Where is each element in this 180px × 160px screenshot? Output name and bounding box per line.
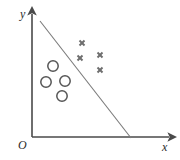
circle-marker bbox=[48, 61, 58, 71]
cross-marker bbox=[98, 68, 103, 73]
cross-marker bbox=[78, 56, 83, 61]
x-axis-label: x bbox=[162, 141, 167, 153]
circle-marker bbox=[60, 76, 70, 86]
circle-marker bbox=[41, 77, 51, 87]
y-axis-label: y bbox=[20, 8, 25, 20]
cross-marker bbox=[98, 53, 103, 58]
decision-boundary-line bbox=[40, 21, 131, 138]
scatter-figure: y x O bbox=[0, 0, 180, 160]
origin-label: O bbox=[18, 139, 27, 151]
cross-marker-group bbox=[78, 41, 103, 73]
axes-group bbox=[32, 14, 169, 137]
circle-marker bbox=[57, 91, 67, 101]
circle-marker-group bbox=[41, 61, 70, 101]
figure-canvas bbox=[0, 0, 180, 160]
cross-marker bbox=[80, 41, 85, 46]
